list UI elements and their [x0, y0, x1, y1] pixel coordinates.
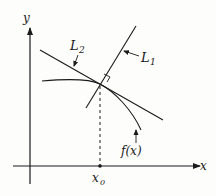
curve-fx: [42, 79, 141, 130]
x0-point: [98, 164, 102, 168]
y-axis-label: y: [22, 11, 30, 25]
L1-subscript: 1: [150, 57, 156, 67]
x-axis-label: x: [200, 159, 207, 173]
x0-subscript: 0: [100, 178, 105, 187]
diagram-svg: y x L 2 L 1 f(x) x 0: [0, 0, 216, 196]
L2-label: L: [69, 38, 79, 53]
L2-pointer: [74, 55, 78, 66]
x0-label: x: [92, 171, 99, 185]
fx-label: f(x): [120, 144, 142, 158]
diagram-canvas: y x L 2 L 1 f(x) x 0: [0, 0, 216, 196]
line-L1: [86, 26, 136, 108]
L1-pointer: [124, 51, 139, 56]
L1-label: L: [140, 50, 150, 65]
L2-subscript: 2: [78, 45, 85, 55]
